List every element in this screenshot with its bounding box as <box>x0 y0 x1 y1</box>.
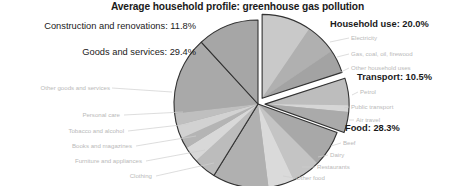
slice-label-household-use: Household use: 20.0% <box>330 20 429 29</box>
sub-label-public-transport: Public transport <box>351 104 393 110</box>
leader-line <box>337 54 349 57</box>
slice-label-goods-and-services: Goods and services: 29.4% <box>8 48 196 57</box>
leader-line <box>352 92 358 95</box>
sub-label-books-and-magazines: Books and magazines <box>2 143 132 149</box>
sub-label-other-goods-and-services: Other goods and services <box>2 85 110 91</box>
leader-line <box>112 88 172 92</box>
sub-label-tobacco-and-alcohol: Tobacco and alcohol <box>2 128 124 134</box>
sub-label-furniture-and-appliances: Furniture and appliances <box>2 158 142 164</box>
sub-label-other-household-uses: Other household uses <box>351 65 411 71</box>
sub-label-beef: Beef <box>343 140 356 146</box>
sub-label-air-travel: Air travel <box>356 117 380 123</box>
leader-line <box>341 68 349 72</box>
sub-label-petrol: Petrol <box>360 89 376 95</box>
slice-label-construction: Construction and renovations: 11.8% <box>8 22 196 31</box>
slice-label-food: Food: 28.3% <box>345 124 400 133</box>
pie-chart-figure: Average household profile: greenhouse ga… <box>0 0 475 186</box>
pie-slices-group <box>174 14 349 186</box>
leader-line <box>330 38 349 42</box>
slice-label-transport: Transport: 10.5% <box>357 73 432 82</box>
sub-label-restaurants: Restaurants <box>317 164 350 170</box>
sub-label-gas-coal-oil-firewood: Gas, coal, oil, firewood <box>351 51 413 57</box>
sub-label-electricity: Electricity <box>351 35 377 41</box>
sub-label-dairy: Dairy <box>330 152 344 158</box>
sub-label-personal-care: Personal care <box>2 112 120 118</box>
sub-label-clothing: Clothing <box>2 173 152 179</box>
sub-label-other-food: Other food <box>296 175 325 181</box>
